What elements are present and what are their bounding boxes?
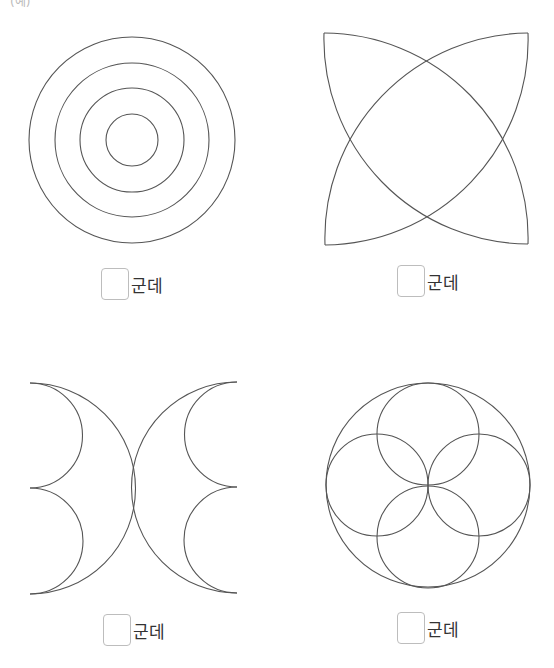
- answer-box[interactable]: [397, 612, 425, 644]
- answer-field-3: 군데: [103, 614, 165, 646]
- answer-box[interactable]: [101, 268, 129, 300]
- unit-label: 군데: [427, 269, 459, 294]
- answer-field-2: 군데: [397, 265, 459, 297]
- figure-concentric-circles: [29, 37, 235, 243]
- unit-label: 군데: [427, 616, 459, 641]
- answer-field-1: 군데: [101, 268, 163, 300]
- figure-four-petal-circles: [326, 383, 530, 588]
- figures-canvas: [0, 0, 554, 668]
- answer-box[interactable]: [397, 265, 425, 297]
- answer-field-4: 군데: [397, 612, 459, 644]
- unit-label: 군데: [131, 272, 163, 297]
- figure-crescent-pair: [30, 382, 237, 594]
- figure-crossed-lenses: [324, 33, 528, 245]
- answer-box[interactable]: [103, 614, 131, 646]
- unit-label: 군데: [133, 618, 165, 643]
